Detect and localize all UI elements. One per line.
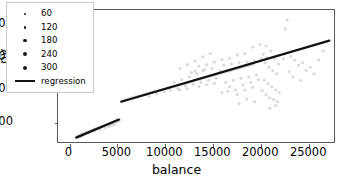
dot-icon bbox=[23, 66, 28, 71]
scatter-point bbox=[297, 64, 300, 67]
dot-icon bbox=[23, 39, 26, 42]
scatter-point bbox=[232, 79, 235, 82]
legend-dot-icon bbox=[12, 39, 38, 42]
scatter-point bbox=[274, 104, 277, 107]
scatter-point bbox=[163, 90, 166, 93]
scatter-point bbox=[236, 53, 239, 56]
legend-size-label: 180 bbox=[38, 36, 57, 45]
scatter-point bbox=[220, 58, 223, 61]
scatter-point bbox=[282, 57, 285, 60]
scatter-point bbox=[238, 61, 241, 64]
scatter-point bbox=[245, 60, 248, 63]
scatter-point bbox=[270, 85, 273, 88]
regression-segment bbox=[121, 41, 329, 102]
scatter-point bbox=[184, 85, 187, 88]
scatter-point bbox=[228, 57, 231, 60]
scatter-point bbox=[155, 92, 158, 95]
scatter-point bbox=[178, 67, 181, 70]
legend-dot-icon bbox=[12, 66, 38, 71]
scatter-point bbox=[305, 69, 308, 72]
scatter-point bbox=[209, 52, 212, 55]
scatter-point bbox=[268, 107, 271, 110]
x-tick-label: 25000 bbox=[278, 147, 338, 159]
scatter-point bbox=[312, 72, 315, 75]
scatter-point bbox=[240, 77, 243, 80]
legend-size-item-120[interactable]: 120 bbox=[12, 21, 86, 35]
legend-dot-icon bbox=[12, 26, 38, 29]
y-tick bbox=[55, 123, 59, 124]
scatter-point bbox=[299, 79, 302, 82]
scatter-point bbox=[264, 44, 267, 47]
scatter-point bbox=[259, 43, 262, 46]
scatter-point bbox=[222, 64, 225, 67]
scatter-point bbox=[268, 96, 271, 99]
scatter-point bbox=[291, 75, 294, 78]
scatter-point bbox=[241, 83, 244, 86]
scatter-point bbox=[322, 49, 325, 52]
regression-segment bbox=[76, 120, 119, 138]
scatter-point bbox=[113, 123, 116, 126]
scatter-point bbox=[293, 59, 296, 62]
scatter-point bbox=[262, 53, 265, 56]
scatter-point bbox=[274, 88, 277, 91]
scatter-point bbox=[190, 71, 193, 74]
legend-size-item-180[interactable]: 180 bbox=[12, 34, 86, 48]
scatter-point bbox=[255, 74, 258, 77]
legend-regression-item[interactable]: regression bbox=[12, 75, 86, 89]
scatter-point bbox=[238, 102, 241, 105]
scatter-point bbox=[110, 124, 113, 127]
legend-size-item-60[interactable]: 60 bbox=[12, 7, 86, 21]
scatter-point bbox=[309, 66, 312, 69]
scatter-point bbox=[201, 55, 204, 58]
legend-size-label: 120 bbox=[38, 23, 57, 32]
y-tick-label: 500 bbox=[0, 116, 13, 128]
legend-dot-icon bbox=[12, 13, 38, 15]
scatter-point bbox=[253, 100, 256, 103]
scatter-point bbox=[243, 88, 246, 91]
scatter-point bbox=[249, 81, 252, 84]
scatter-point bbox=[263, 79, 266, 82]
scatter-point bbox=[261, 89, 264, 92]
scatter-point bbox=[257, 78, 260, 81]
scatter-point bbox=[215, 77, 218, 80]
scatter-point bbox=[226, 90, 229, 93]
scatter-point bbox=[186, 63, 189, 66]
legend-size-item-240[interactable]: 240 bbox=[12, 48, 86, 62]
scatter-point bbox=[228, 85, 231, 88]
scatter-point bbox=[180, 78, 183, 81]
scatter-point bbox=[224, 81, 227, 84]
scatter-point bbox=[199, 81, 202, 84]
scatter-point bbox=[278, 91, 281, 94]
scatter-point bbox=[317, 59, 320, 62]
legend-size-label: 300 bbox=[38, 63, 57, 72]
scatter-point bbox=[267, 66, 270, 69]
scatter-point bbox=[251, 46, 254, 49]
scatter-point bbox=[272, 98, 275, 101]
scatter-point bbox=[276, 100, 279, 103]
scatter-point bbox=[266, 82, 269, 85]
scatter-point bbox=[243, 52, 246, 55]
dot-icon bbox=[24, 13, 26, 15]
scatter-point bbox=[245, 98, 248, 101]
legend-line-icon bbox=[12, 80, 38, 82]
scatter-point bbox=[277, 62, 280, 65]
scatter-point bbox=[271, 69, 274, 72]
scatter-point bbox=[264, 93, 267, 96]
scatter-point bbox=[284, 27, 287, 30]
scatter-point bbox=[220, 91, 223, 94]
scatter-point bbox=[178, 88, 181, 91]
legend[interactable]: 60120180240300regression bbox=[6, 2, 94, 93]
legend-size-label: 60 bbox=[38, 9, 52, 18]
scatter-point bbox=[213, 60, 216, 63]
plot-svg bbox=[58, 10, 334, 142]
scatter-point bbox=[264, 61, 267, 64]
scatter-point bbox=[172, 81, 175, 84]
scatter-point bbox=[194, 59, 197, 62]
x-axis-title: balance bbox=[0, 162, 353, 177]
scatter-point bbox=[188, 75, 191, 78]
scatter-point bbox=[230, 62, 233, 65]
scatter-point bbox=[251, 86, 254, 89]
scatter-point bbox=[275, 72, 278, 75]
legend-size-item-300[interactable]: 300 bbox=[12, 61, 86, 75]
scatter-point bbox=[169, 88, 172, 91]
